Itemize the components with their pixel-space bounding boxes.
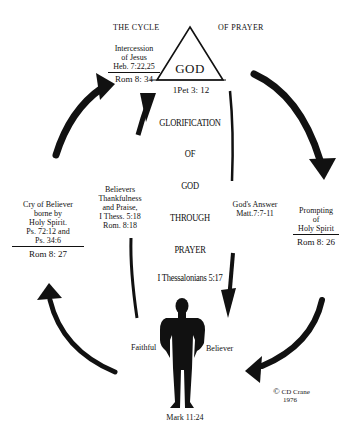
copyright-author: CD Crane: [282, 388, 310, 396]
arrow-left-icon: [37, 283, 115, 372]
prompting-text: Prompting of Holy Spirit Rom 8: 26: [293, 207, 339, 247]
apex-label: GOD: [170, 62, 210, 77]
gods-answer-text: God's Answer Matt.7:7-11: [227, 201, 283, 219]
answer-line-2: Matt.7:7-11: [227, 210, 283, 219]
intercession-text: Intercession of Jesus Heb. 7:22,25 Rom 8…: [108, 45, 160, 84]
title-right: OF PRAYER: [218, 24, 264, 33]
figure-left-label: Faithful: [131, 344, 156, 353]
center-line-5: PRAYER: [156, 244, 224, 255]
center-line-2: OF: [156, 148, 224, 159]
center-line-3: GOD: [156, 180, 224, 191]
cry-line-5: Ps. 34:6: [12, 237, 84, 247]
copyright-symbol: ©: [273, 386, 280, 396]
arrow-top-left-icon: [56, 73, 115, 155]
figure-right-label: Believer: [206, 345, 233, 354]
center-line-4: THROUGH: [156, 212, 224, 223]
center-line-1: GLORIFICATION: [156, 117, 224, 128]
prompting-reference: Rom 8: 26: [293, 237, 339, 247]
intercession-reference: Rom 8: 34: [108, 74, 160, 84]
title-left: THE CYCLE: [113, 24, 159, 33]
center-reference: I Thessalonians 5:17: [146, 272, 234, 283]
arrow-top-right-icon: [254, 74, 336, 180]
person-silhouette-icon: [160, 298, 205, 408]
thankfulness-text: Believers Thankfulness and Praise, I The…: [92, 186, 148, 231]
copyright-year: 1976: [283, 397, 310, 405]
cry-of-believer-text: Cry of Believer borne by Holy Spirit. Ps…: [12, 201, 84, 259]
cry-reference: Rom 8: 27: [12, 249, 84, 259]
prompting-line-3: Holy Spirit: [293, 225, 339, 235]
thank-line-5: Rom. 8:18: [92, 222, 148, 231]
figure-reference: Mark 11:24: [163, 414, 207, 423]
arrow-bottom-right-icon: [245, 300, 322, 383]
apex-reference: 1Pet 3: 12: [165, 85, 217, 95]
intercession-line-3: Heb. 7:22,25: [108, 63, 160, 73]
copyright-text: © CD Crane 1976: [273, 386, 310, 405]
